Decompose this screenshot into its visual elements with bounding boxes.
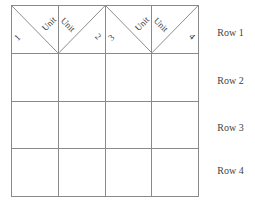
diagonal-backslash-icon bbox=[12, 6, 58, 53]
body-cell[interactable] bbox=[106, 149, 153, 197]
table-row bbox=[12, 54, 199, 102]
body-cell[interactable] bbox=[152, 149, 199, 197]
unit-row-grid-figure: Unit 1 Unit 2 Unit 3 bbox=[0, 0, 255, 208]
body-cell[interactable] bbox=[59, 149, 106, 197]
body-cell[interactable] bbox=[12, 149, 59, 197]
row-label-4: Row 4 bbox=[206, 165, 255, 176]
row-label-column: Row 1 Row 2 Row 3 Row 4 bbox=[206, 5, 255, 197]
header-cell-unit-1[interactable]: Unit 1 bbox=[12, 6, 59, 54]
header-cell-unit-2[interactable]: Unit 2 bbox=[59, 6, 106, 54]
body-cell[interactable] bbox=[152, 54, 199, 102]
body-cell[interactable] bbox=[106, 102, 153, 150]
header-cell-unit-3[interactable]: Unit 3 bbox=[106, 6, 153, 54]
row-label-1: Row 1 bbox=[206, 27, 255, 38]
row-label-3: Row 3 bbox=[206, 122, 255, 133]
table-row bbox=[12, 149, 199, 197]
row-label-2: Row 2 bbox=[206, 75, 255, 86]
grid-table: Unit 1 Unit 2 Unit 3 bbox=[11, 5, 199, 197]
body-cell[interactable] bbox=[59, 54, 106, 102]
table-row bbox=[12, 102, 199, 150]
table-header-row: Unit 1 Unit 2 Unit 3 bbox=[12, 6, 199, 54]
body-cell[interactable] bbox=[106, 54, 153, 102]
diagonal-backslash-icon bbox=[106, 6, 152, 53]
header-cell-unit-4[interactable]: Unit 4 bbox=[152, 6, 199, 54]
body-cell[interactable] bbox=[12, 102, 59, 150]
body-cell[interactable] bbox=[12, 54, 59, 102]
body-cell[interactable] bbox=[152, 102, 199, 150]
body-cell[interactable] bbox=[59, 102, 106, 150]
